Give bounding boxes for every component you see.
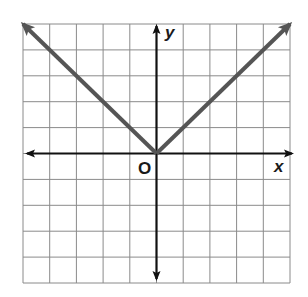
graph-left-branch — [23, 24, 157, 154]
x-axis-label: x — [274, 158, 283, 175]
origin-label: O — [138, 160, 151, 177]
graph-right-branch — [157, 24, 291, 154]
y-axis-label: y — [165, 24, 174, 41]
coordinate-plane — [0, 0, 308, 297]
